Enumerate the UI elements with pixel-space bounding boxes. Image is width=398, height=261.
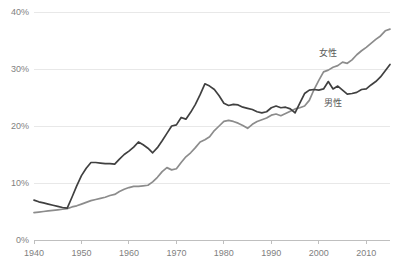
x-tick-label-1980: 1980 <box>214 248 234 258</box>
chart-canvas: 0%10%20%30%40% 1940195019601970198019902… <box>0 0 398 261</box>
axes-group <box>34 240 390 244</box>
series-label-1: 女性 <box>319 47 337 58</box>
series-line-2 <box>34 64 390 208</box>
x-tick-label-1960: 1960 <box>119 248 139 258</box>
y-tick-label-40: 40% <box>11 7 29 17</box>
x-tick-label-1970: 1970 <box>166 248 186 258</box>
series-annotations-group: 女性男性 <box>319 47 342 108</box>
y-tick-label-0: 0% <box>16 235 29 245</box>
y-axis-tick-labels: 0%10%20%30%40% <box>11 7 29 245</box>
x-tick-label-2010: 2010 <box>356 248 376 258</box>
x-tick-label-2000: 2000 <box>309 248 329 258</box>
y-tick-label-20: 20% <box>11 121 29 131</box>
x-tick-label-1950: 1950 <box>71 248 91 258</box>
x-tick-label-1990: 1990 <box>261 248 281 258</box>
y-tick-label-10: 10% <box>11 178 29 188</box>
series-label-2: 男性 <box>324 97 342 108</box>
x-axis-tick-labels: 19401950196019701980199020002010 <box>24 248 376 258</box>
line-chart: 0%10%20%30%40% 1940195019601970198019902… <box>0 0 398 261</box>
y-tick-label-30: 30% <box>11 64 29 74</box>
x-tick-label-1940: 1940 <box>24 248 44 258</box>
